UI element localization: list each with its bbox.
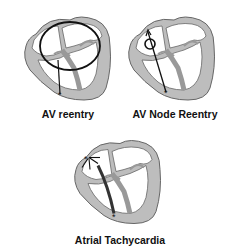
origin-asterisk-icon: *	[112, 212, 116, 222]
label-av-reentry: AV reentry	[33, 108, 103, 120]
label-av-node-reentry: AV Node Reentry	[130, 108, 220, 120]
av-node-reentry-diagram: *	[122, 12, 222, 102]
heart-illustration: * *	[68, 133, 168, 228]
label-atrial-tachycardia: Atrial Tachycardia	[70, 234, 170, 246]
av-reentry-diagram: *	[18, 12, 118, 102]
origin-asterisk-icon: *	[164, 88, 168, 98]
heart-illustration: *	[18, 12, 118, 102]
atrial-tachycardia-diagram: * *	[68, 133, 168, 228]
origin-asterisk-icon: *	[58, 90, 62, 100]
heart-illustration: *	[122, 12, 222, 102]
